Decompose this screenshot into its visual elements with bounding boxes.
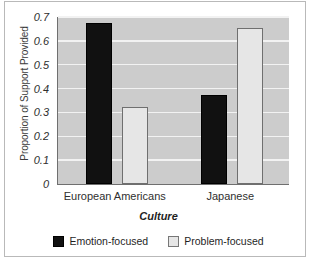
y-axis-tick-label: 0.2: [34, 130, 49, 142]
legend-label: Problem-focused: [184, 235, 263, 247]
chart-legend: Emotion-focusedProblem-focused: [0, 235, 317, 247]
bar-european-americans-problem-focused: [122, 107, 148, 184]
y-axis-tick-label: 0.5: [34, 59, 49, 71]
chart-figure: Proportion of Support Provided 0.70.60.5…: [0, 0, 317, 270]
y-axis-tick-label: 0.6: [34, 35, 49, 47]
x-axis-category-label: European Americans: [64, 190, 166, 202]
y-axis-tick-labels: 0.70.60.50.40.30.20.10: [0, 0, 53, 270]
legend-swatch-icon: [53, 236, 64, 247]
gridline: [58, 16, 289, 18]
y-axis-tick-label: 0.7: [34, 11, 49, 23]
plot-inner: [58, 17, 289, 184]
bar-japanese-emotion-focused: [201, 95, 227, 184]
plot-area: [57, 17, 289, 185]
x-axis-category-label: Japanese: [206, 190, 254, 202]
y-axis-tick-label: 0.1: [34, 154, 49, 166]
legend-label: Emotion-focused: [69, 235, 148, 247]
x-axis-title: Culture: [0, 210, 317, 222]
y-axis-tick-label: 0.3: [34, 106, 49, 118]
bar-european-americans-emotion-focused: [86, 23, 112, 184]
y-axis-tick-label: 0: [43, 178, 49, 190]
legend-item: Problem-focused: [168, 235, 263, 247]
y-axis-tick-label: 0.4: [34, 83, 49, 95]
legend-swatch-icon: [168, 236, 179, 247]
bar-japanese-problem-focused: [237, 28, 263, 184]
legend-item: Emotion-focused: [53, 235, 148, 247]
